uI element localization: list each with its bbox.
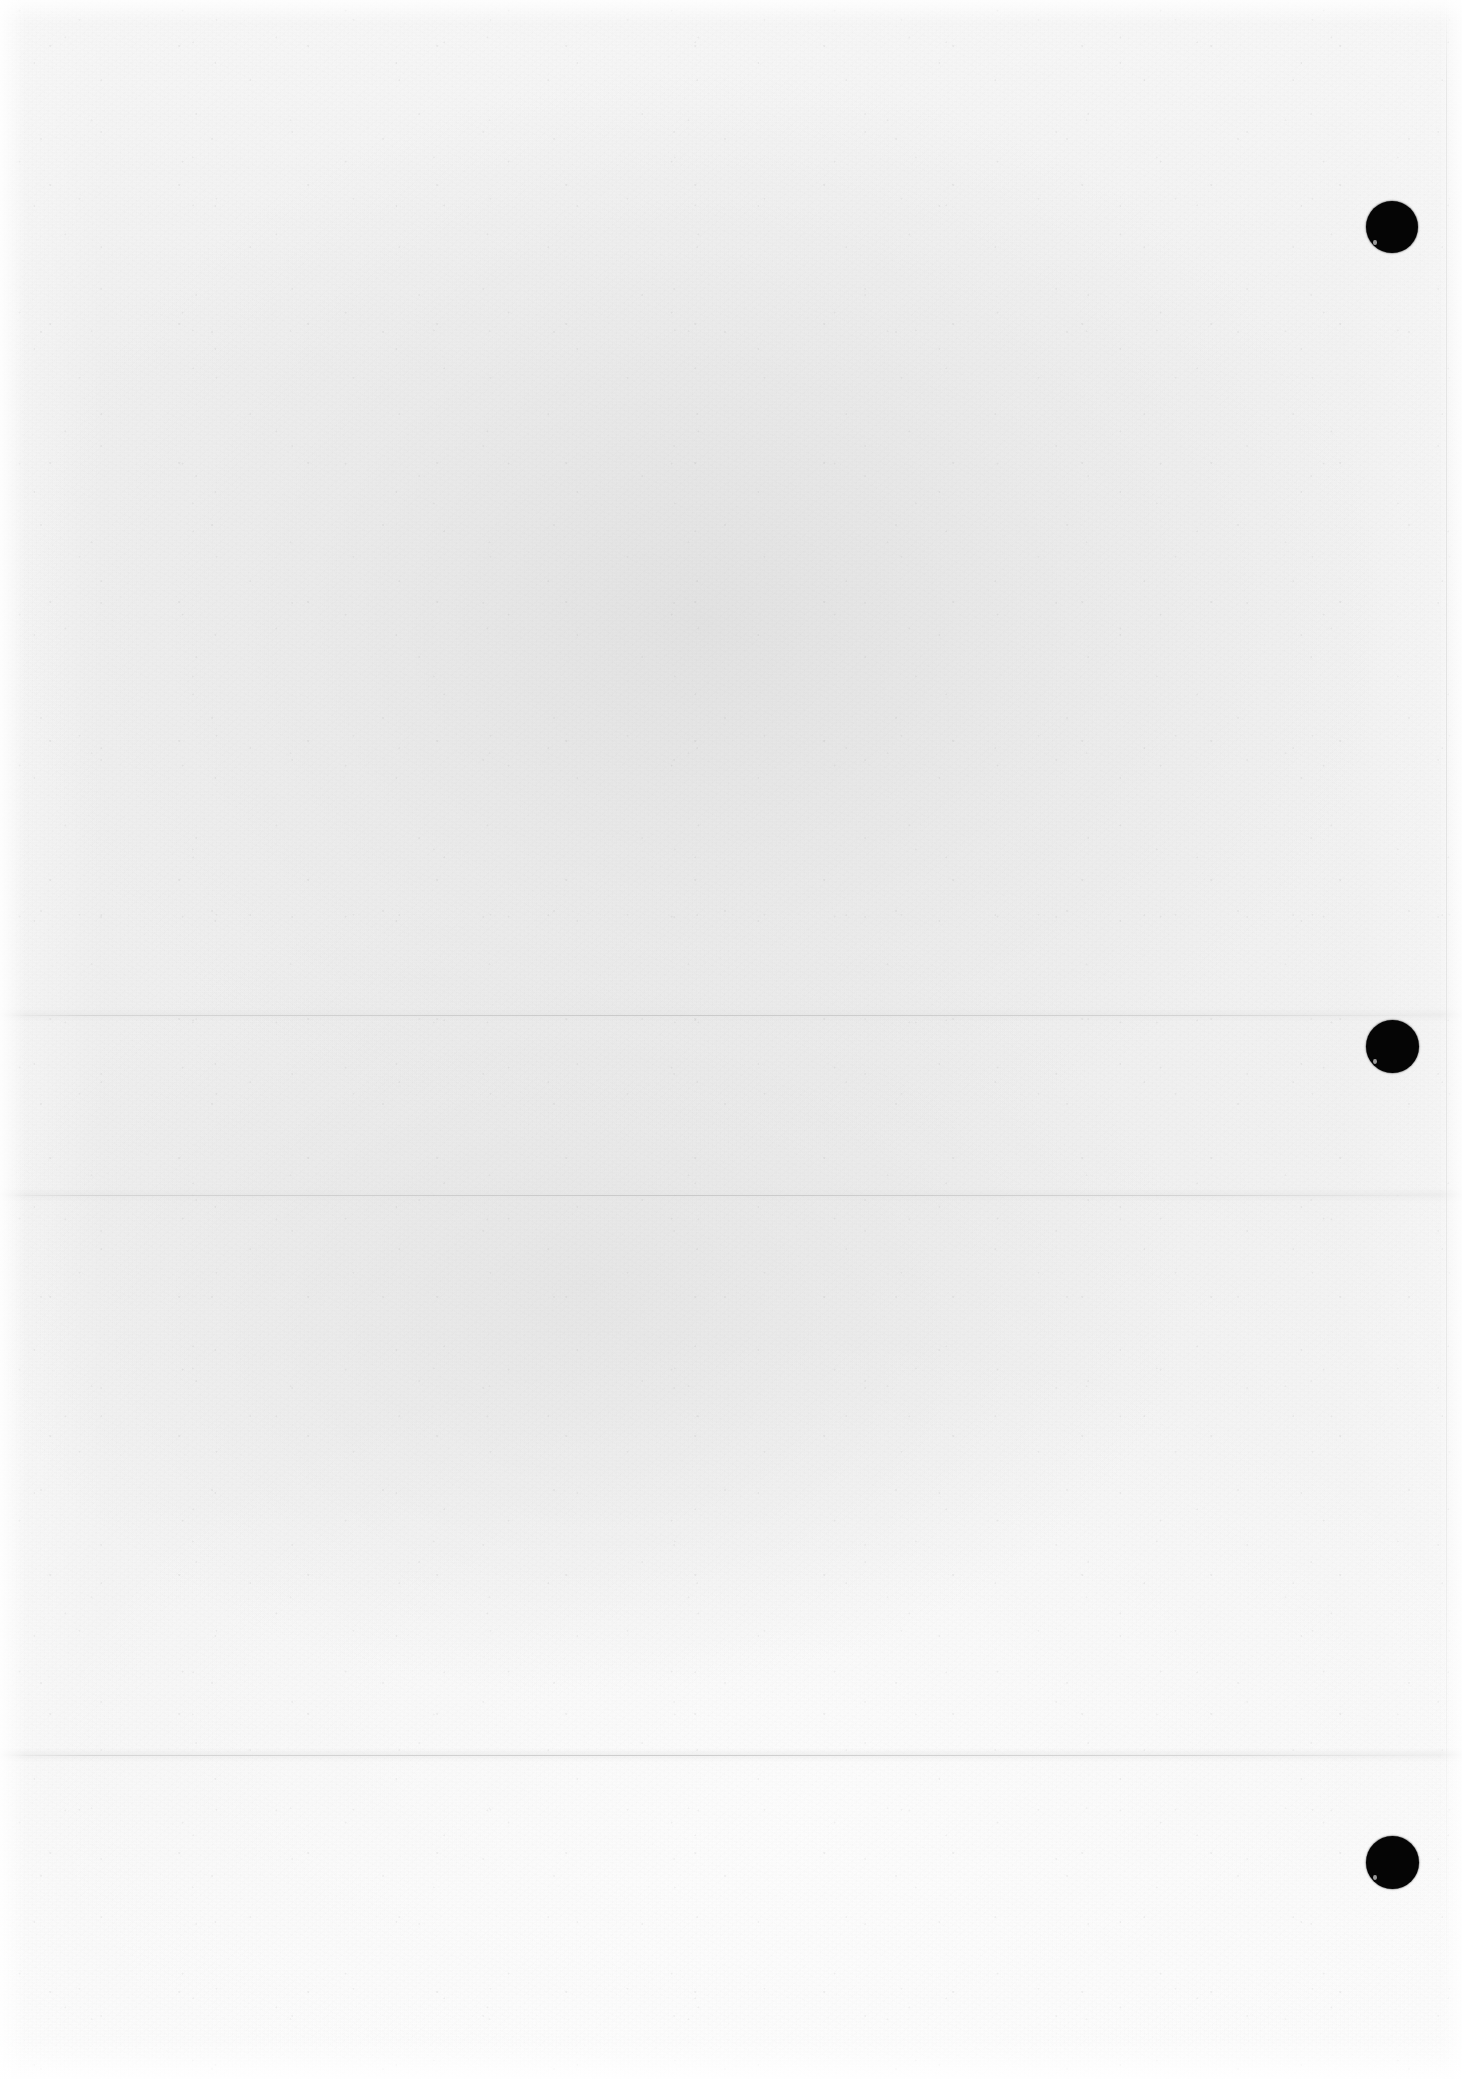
- right-margin-rule: [1446, 0, 1447, 2079]
- punch-hole-mark-2: [1366, 1020, 1419, 1073]
- punch-hole-mark-3: [1366, 1836, 1419, 1889]
- scanned-page: [0, 0, 1462, 2079]
- page-content-area: [88, 96, 1328, 1976]
- punch-hole-mark-1: [1366, 201, 1418, 253]
